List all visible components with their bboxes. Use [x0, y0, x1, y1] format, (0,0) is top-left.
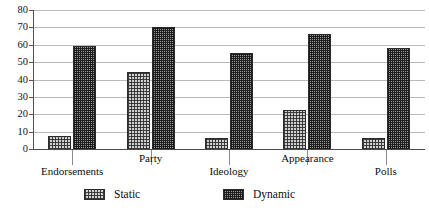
x-axis-tick-label: Appearance	[281, 152, 334, 164]
static-pattern-swatch	[84, 189, 105, 200]
bar-ideology-dynamic	[230, 53, 253, 150]
y-axis-tick-label: 70	[0, 22, 28, 32]
legend-item-static[interactable]: Static	[84, 188, 140, 200]
y-axis-tick-label: 40	[0, 75, 28, 85]
x-axis-tick-mark	[229, 150, 230, 165]
legend-label: Static	[114, 188, 140, 200]
bar-appearance-dynamic	[308, 34, 331, 150]
dynamic-pattern-swatch	[223, 189, 244, 200]
y-axis-tick-label: 30	[0, 92, 28, 102]
bar-endorsements-static	[48, 136, 71, 150]
bar-chart: 01020304050607080 EndorsementsPartyIdeol…	[0, 0, 429, 213]
y-axis-tick-label: 50	[0, 57, 28, 67]
legend-label: Dynamic	[253, 188, 295, 200]
x-axis-tick-label: Endorsements	[41, 165, 103, 177]
bar-polls-dynamic	[387, 48, 410, 151]
bar-appearance-static	[283, 110, 306, 150]
y-axis-tick-label: 20	[0, 109, 28, 119]
x-axis-tick-mark	[72, 150, 73, 165]
bar-endorsements-dynamic	[73, 46, 96, 150]
bars-layer	[33, 10, 425, 150]
x-axis-tick-mark	[386, 150, 387, 165]
bar-party-dynamic	[152, 27, 175, 150]
y-axis-tick-label: 10	[0, 127, 28, 137]
y-axis-tick-label: 0	[0, 144, 28, 154]
x-axis-tick-label: Ideology	[209, 165, 248, 177]
bar-party-static	[127, 72, 150, 150]
x-axis-tick-label: Party	[139, 152, 162, 164]
chart-legend: StaticDynamic	[0, 188, 429, 208]
legend-item-dynamic[interactable]: Dynamic	[223, 188, 295, 200]
y-axis-tick-label: 80	[0, 5, 28, 15]
x-axis-tick-label: Polls	[375, 165, 397, 177]
y-axis-tick-label: 60	[0, 40, 28, 50]
